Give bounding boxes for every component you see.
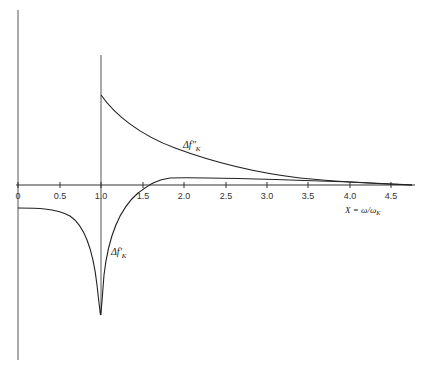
tick-label: 4.0 <box>344 191 357 201</box>
curve-delta-f-double-prime <box>101 95 412 185</box>
chart: 0 0.5 1.0 1.5 2.0 2.5 3.0 3.5 4.0 4.5 Δf… <box>0 0 428 372</box>
tick-label: 2.0 <box>178 191 191 201</box>
tick-label: 4.5 <box>385 191 398 201</box>
tick-label: 0.5 <box>54 191 67 201</box>
x-axis-label: X = ω/ωK <box>344 205 381 216</box>
tick-label: 0 <box>15 191 20 201</box>
x-tick-labels: 0 0.5 1.0 1.5 2.0 2.5 3.0 3.5 4.0 4.5 <box>15 191 397 201</box>
tick-label: 2.5 <box>220 191 233 201</box>
tick-label: 3.5 <box>302 191 315 201</box>
label-delta-f-double-prime: Δf″K <box>182 139 201 153</box>
tick-label: 1.0 <box>95 191 108 201</box>
tick-label: 3.0 <box>261 191 274 201</box>
label-delta-f-prime: Δf′K <box>110 246 127 260</box>
